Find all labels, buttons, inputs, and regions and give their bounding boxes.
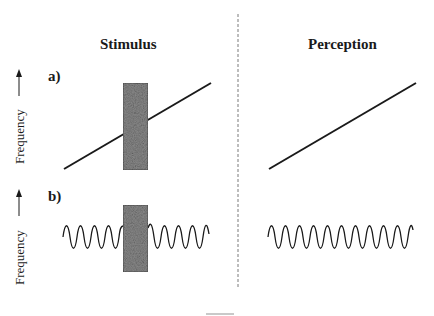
panel-b-perception-sine-wave	[268, 226, 413, 249]
figure: Stimulus Perception a) b) Frequency Freq…	[0, 0, 434, 316]
panel-a-perception-line	[269, 83, 416, 169]
diagram-canvas	[0, 0, 434, 316]
panel-a-noise-burst	[123, 83, 148, 170]
panel-a-frequency-arrow-icon	[16, 69, 22, 96]
panel-b-frequency-arrow-icon	[16, 189, 22, 216]
panel-b-noise-burst	[123, 205, 148, 272]
figure-caption-fragment	[206, 309, 234, 316]
